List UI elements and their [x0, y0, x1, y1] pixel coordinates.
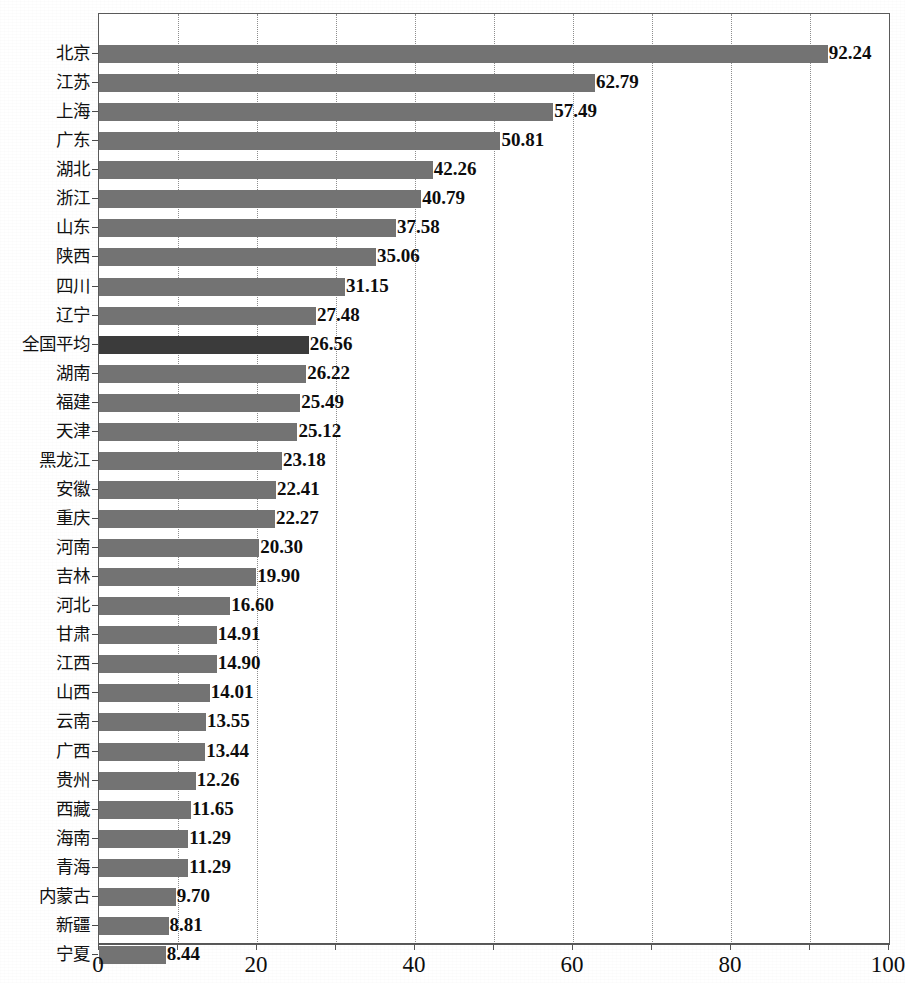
bar-value-label: 25.12 — [298, 421, 341, 440]
bar — [99, 248, 376, 266]
bar — [99, 888, 176, 906]
category-label: 辽宁 — [56, 306, 90, 324]
bar — [99, 278, 345, 296]
category-tick — [92, 256, 98, 257]
bar-value-label: 57.49 — [554, 101, 597, 120]
gridline-60 — [573, 14, 574, 944]
category-tick — [92, 315, 98, 316]
bar — [99, 132, 500, 150]
category-tick — [92, 780, 98, 781]
category-tick — [92, 82, 98, 83]
category-label: 重庆 — [56, 509, 90, 527]
category-label: 北京 — [56, 44, 90, 62]
category-tick — [92, 721, 98, 722]
bar — [99, 772, 196, 790]
gridline-30 — [336, 14, 337, 944]
bar — [99, 394, 300, 412]
x-axis-tick-label: 40 — [403, 952, 426, 978]
bar-value-label: 9.70 — [177, 886, 210, 905]
bar-value-label: 20.30 — [260, 537, 303, 556]
category-tick — [92, 896, 98, 897]
bar — [99, 74, 595, 92]
category-tick — [92, 576, 98, 577]
bar — [99, 597, 230, 615]
category-label: 甘肃 — [56, 625, 90, 643]
x-axis-tick-80 — [730, 943, 731, 950]
category-label: 宁夏 — [56, 945, 90, 963]
category-label: 内蒙古 — [39, 887, 90, 905]
bar-value-label: 14.91 — [218, 624, 261, 643]
category-label: 安徽 — [56, 480, 90, 498]
bar-value-label: 12.26 — [197, 770, 240, 789]
category-label: 山西 — [56, 683, 90, 701]
bar — [99, 946, 166, 964]
bar-value-label: 11.65 — [192, 799, 234, 818]
bar — [99, 568, 256, 586]
category-label: 湖北 — [56, 160, 90, 178]
category-tick — [92, 809, 98, 810]
bar-value-label: 31.15 — [346, 276, 389, 295]
category-tick — [92, 198, 98, 199]
x-axis-tick-30 — [335, 943, 336, 950]
category-label: 青海 — [56, 858, 90, 876]
bar — [99, 713, 206, 731]
bar-value-label: 92.24 — [829, 43, 872, 62]
bar — [99, 307, 316, 325]
x-axis-tick-label: 0 — [92, 952, 104, 978]
x-axis-tick-100 — [888, 943, 889, 950]
category-tick — [92, 663, 98, 664]
bar-value-label: 11.29 — [189, 857, 231, 876]
bar — [99, 190, 421, 208]
bar-value-label: 14.90 — [218, 653, 261, 672]
bar — [99, 45, 828, 63]
category-label: 海南 — [56, 829, 90, 847]
bar-value-label: 27.48 — [317, 305, 360, 324]
x-axis-tick-70 — [651, 943, 652, 950]
category-label: 陕西 — [56, 247, 90, 265]
category-label: 广西 — [56, 742, 90, 760]
category-label: 贵州 — [56, 771, 90, 789]
category-label: 河南 — [56, 538, 90, 556]
bar-value-label: 19.90 — [257, 566, 300, 585]
category-tick — [92, 838, 98, 839]
bar-chart: 中 国 区 域 区 域 创 新 的 发 展 水 平 与 结 构 特 征 北京江苏… — [0, 0, 905, 983]
gridline-80 — [731, 14, 732, 944]
category-tick — [92, 53, 98, 54]
bar — [99, 801, 191, 819]
category-label: 江苏 — [56, 73, 90, 91]
bar-value-label: 50.81 — [501, 130, 544, 149]
category-label: 上海 — [56, 102, 90, 120]
x-axis-tick-90 — [809, 943, 810, 950]
category-label: 四川 — [56, 277, 90, 295]
bar-value-label: 8.81 — [170, 915, 203, 934]
bar — [99, 655, 217, 673]
x-axis-tick-label: 80 — [719, 952, 742, 978]
x-axis-tick-20 — [256, 943, 257, 950]
bar-value-label: 23.18 — [283, 450, 326, 469]
gridline-40 — [415, 14, 416, 944]
category-label: 福建 — [56, 393, 90, 411]
bar — [99, 423, 297, 441]
category-label: 新疆 — [56, 916, 90, 934]
bar — [99, 684, 210, 702]
bar — [99, 830, 188, 848]
x-axis-tick-label: 60 — [561, 952, 584, 978]
bar — [99, 743, 205, 761]
gridline-70 — [652, 14, 653, 944]
category-tick — [92, 634, 98, 635]
category-tick — [92, 954, 98, 955]
category-label: 天津 — [56, 422, 90, 440]
bar — [99, 365, 306, 383]
x-axis-tick-label: 20 — [245, 952, 268, 978]
category-label: 黑龙江 — [39, 451, 90, 469]
category-tick — [92, 460, 98, 461]
bar — [99, 219, 396, 237]
category-label: 西藏 — [56, 800, 90, 818]
category-label: 河北 — [56, 596, 90, 614]
category-label: 广东 — [56, 131, 90, 149]
x-axis-tick-0 — [98, 943, 99, 950]
category-tick — [92, 925, 98, 926]
category-tick — [92, 286, 98, 287]
category-tick — [92, 518, 98, 519]
bar — [99, 336, 309, 354]
